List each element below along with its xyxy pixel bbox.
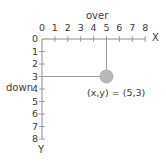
y-tick-label: 8: [32, 134, 38, 144]
y-tick-label: 1: [32, 47, 38, 57]
point-coordinate-label: (x,y) = (5,3): [87, 88, 145, 98]
x-axis-label: X: [152, 33, 159, 43]
y-axis-label: Y: [38, 145, 44, 155]
y-tick-label: 2: [32, 59, 38, 69]
y-tick-label: 0: [32, 34, 38, 44]
down-label: down: [6, 83, 33, 93]
x-tick-label: 1: [52, 23, 58, 33]
point-marker: [100, 70, 114, 84]
x-tick-label: 7: [129, 23, 135, 33]
x-tick-label: 2: [65, 23, 71, 33]
x-tick-label: 5: [103, 23, 109, 33]
x-tick-label: 0: [39, 23, 45, 33]
x-tick-label: 4: [91, 23, 97, 33]
x-tick-label: 8: [142, 23, 148, 33]
x-tick-label: 3: [78, 23, 84, 33]
x-tick-label: 6: [116, 23, 122, 33]
over-label: over: [86, 11, 108, 21]
coordinate-diagram: over X Y down (x,y) = (5,3) 012345678 01…: [0, 0, 166, 164]
y-tick-label: 6: [32, 109, 38, 119]
y-tick-label: 3: [32, 72, 38, 82]
y-tick-label: 5: [32, 97, 38, 107]
y-tick-label: 4: [32, 84, 38, 94]
y-tick-label: 7: [32, 122, 38, 132]
